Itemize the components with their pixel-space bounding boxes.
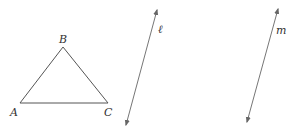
geometry-diagram: A B C ℓ m (0, 0, 299, 132)
line-label-m: m (276, 24, 286, 37)
vertex-label-a: A (9, 106, 18, 119)
line-label-l: ℓ (158, 23, 163, 36)
vertex-label-c: C (104, 106, 113, 119)
line-l: ℓ (126, 10, 163, 125)
line-m: m (247, 9, 286, 122)
triangle-abc: A B C (9, 33, 113, 119)
vertex-label-b: B (58, 33, 67, 46)
